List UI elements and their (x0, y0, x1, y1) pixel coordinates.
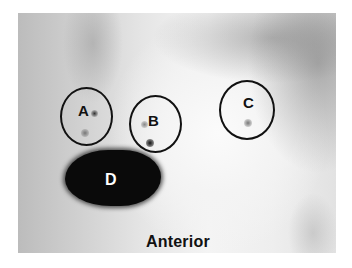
uptake-spot (244, 119, 252, 127)
scintigraphy-image: A B C D Anterior (18, 13, 336, 253)
uptake-spot (146, 139, 154, 147)
roi-label-a: A (78, 103, 89, 118)
roi-label-b: B (148, 113, 159, 128)
uptake-spot (141, 121, 148, 128)
uptake-label-d: D (105, 172, 117, 188)
roi-label-c: C (243, 95, 254, 110)
uptake-spot (81, 129, 89, 137)
view-label: Anterior (146, 234, 210, 250)
uptake-spot (91, 110, 98, 117)
